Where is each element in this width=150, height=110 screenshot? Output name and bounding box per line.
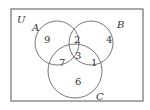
set-a-label: A: [31, 22, 39, 33]
universe-label: U: [17, 14, 26, 25]
region-c-only: 6: [75, 76, 81, 87]
region-a-and-b: 2: [74, 34, 80, 45]
set-c-label: C: [96, 91, 104, 102]
region-a-and-c: 7: [59, 57, 65, 68]
set-a-circle: [35, 21, 79, 65]
region-a-b-c: 3: [75, 50, 81, 61]
region-b-and-c: 1: [91, 57, 97, 68]
venn-diagram: U A B C 9 4 6 2 7 1 3: [0, 0, 150, 110]
region-a-only: 9: [44, 34, 50, 45]
region-b-only: 4: [106, 34, 112, 45]
set-b-label: B: [116, 19, 124, 30]
